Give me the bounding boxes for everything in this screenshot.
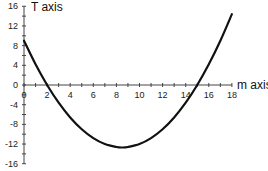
y-tick-label: -12 <box>5 139 18 149</box>
x-tick-label: 18 <box>227 90 237 100</box>
x-tick-label: 12 <box>158 90 168 100</box>
y-tick-label: -16 <box>5 159 18 169</box>
y-tick-label: 12 <box>8 21 18 31</box>
y-axis: 1612840-4-8-12-16 <box>5 1 26 168</box>
x-tick-label: 8 <box>114 90 119 100</box>
y-tick-label: 16 <box>8 1 18 11</box>
series-line <box>24 14 232 147</box>
x-axis-title: m axis <box>237 78 268 92</box>
y-tick-label: 4 <box>13 60 18 70</box>
y-tick-label: -8 <box>10 119 18 129</box>
x-tick-label: 0 <box>21 90 26 100</box>
x-tick-label: 10 <box>134 90 144 100</box>
y-tick-label: -4 <box>10 100 18 110</box>
x-tick-label: 4 <box>68 90 73 100</box>
y-axis-title: T axis <box>31 0 63 14</box>
y-tick-label: 8 <box>13 41 18 51</box>
y-tick-label: 0 <box>13 80 18 90</box>
x-tick-label: 16 <box>204 90 214 100</box>
x-tick-label: 2 <box>45 90 50 100</box>
data-series <box>24 14 232 147</box>
line-chart: 1612840-4-8-12-16 024681012141618 T axis… <box>0 0 268 171</box>
x-tick-label: 6 <box>91 90 96 100</box>
